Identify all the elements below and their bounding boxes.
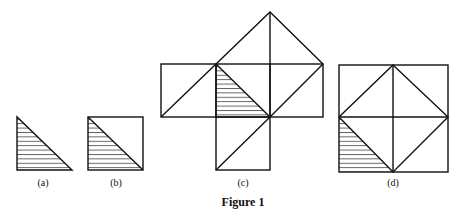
- panel-d-label: (d): [387, 177, 399, 188]
- panel-a: [17, 117, 72, 170]
- left-diagonal: [161, 64, 216, 117]
- figure-caption: Figure 1: [222, 195, 265, 210]
- panel-b: [88, 117, 143, 170]
- hatched-triangle: [17, 117, 72, 170]
- bottom-diagonal: [216, 117, 270, 170]
- panel-b-label: (b): [110, 177, 122, 188]
- right-diagonal: [270, 64, 323, 117]
- panel-a-label: (a): [37, 177, 48, 188]
- panel-d: [339, 65, 448, 172]
- panel-c-label: (c): [237, 177, 248, 188]
- panel-c: [161, 12, 323, 170]
